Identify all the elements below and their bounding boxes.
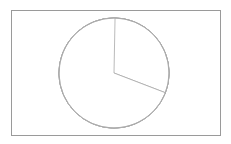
- pie-wedges: [59, 18, 169, 128]
- pie-chart-svg: [0, 0, 231, 144]
- figure-canvas: [0, 0, 231, 144]
